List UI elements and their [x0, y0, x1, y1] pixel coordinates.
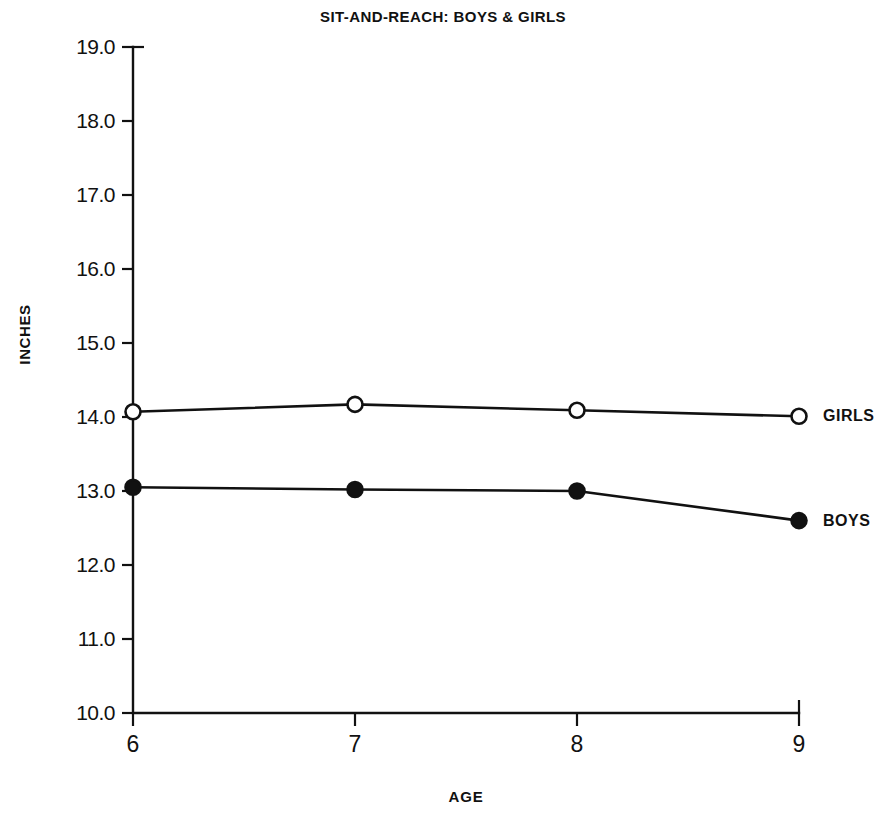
data-point-boys [348, 482, 363, 497]
x-tick-label: 7 [349, 731, 362, 757]
series-labels: GIRLSBOYS [823, 407, 874, 528]
y-tick-label: 10.0 [76, 701, 115, 724]
series-line-girls [133, 404, 799, 416]
data-point-boys [570, 484, 585, 499]
data-point-girls [126, 404, 141, 419]
plot-area: 10.011.012.013.014.015.016.017.018.019.0… [0, 0, 886, 826]
y-tick-label: 19.0 [76, 35, 115, 58]
data-point-boys [126, 480, 141, 495]
y-axis-ticks: 10.011.012.013.014.015.016.017.018.019.0 [76, 35, 133, 724]
y-tick-label: 18.0 [76, 109, 115, 132]
x-axis-ticks: 6789 [127, 713, 806, 757]
y-tick-label: 12.0 [76, 553, 115, 576]
y-tick-label: 17.0 [76, 183, 115, 206]
series-line-boys [133, 487, 799, 520]
y-tick-label: 16.0 [76, 257, 115, 280]
x-tick-label: 6 [127, 731, 140, 757]
x-tick-label: 9 [793, 731, 806, 757]
series-label-boys: BOYS [823, 512, 870, 529]
y-tick-label: 14.0 [76, 405, 115, 428]
x-tick-label: 8 [571, 731, 584, 757]
data-point-girls [348, 397, 363, 412]
data-point-girls [792, 409, 807, 424]
y-tick-label: 15.0 [76, 331, 115, 354]
data-series [126, 397, 807, 528]
data-point-boys [792, 513, 807, 528]
y-tick-label: 13.0 [76, 479, 115, 502]
chart-figure: SIT-AND-REACH: BOYS & GIRLS INCHES AGE 1… [0, 0, 886, 826]
axes [133, 47, 799, 713]
series-label-girls: GIRLS [823, 407, 874, 424]
data-point-girls [570, 403, 585, 418]
y-tick-label: 11.0 [78, 627, 115, 650]
